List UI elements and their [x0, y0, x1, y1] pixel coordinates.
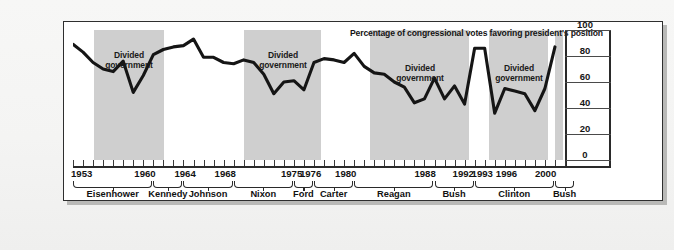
x-tick: [525, 160, 526, 166]
president-label: Eisenhower: [83, 189, 143, 199]
x-tick: [354, 160, 355, 166]
x-tick: [93, 160, 94, 166]
x-year-label: 1996: [496, 168, 517, 179]
x-tick: [334, 160, 335, 166]
x-tick: [284, 160, 285, 166]
x-tick: [264, 160, 265, 166]
x-tick: [445, 160, 446, 166]
band-label-1-line1: Divided: [114, 50, 144, 60]
president-label: Carter: [304, 189, 364, 199]
x-tick: [83, 160, 84, 166]
x-tick: [414, 160, 415, 166]
band-label-2-line1: Divided: [268, 50, 298, 60]
x-tick: [73, 160, 74, 166]
x-tick: [384, 160, 385, 166]
x-tick: [435, 160, 436, 166]
x-tick: [545, 160, 546, 166]
x-year-label: 1964: [174, 168, 195, 179]
x-tick: [565, 160, 566, 166]
y-tick-label: 60: [565, 71, 605, 82]
x-tick: [535, 160, 536, 166]
x-tick: [404, 160, 405, 166]
x-tick: [304, 160, 305, 166]
y-tick-line: [565, 30, 611, 31]
band-label-2: Divided government: [243, 50, 323, 70]
y-axis: 100806040200: [565, 30, 611, 166]
x-tick: [234, 160, 235, 166]
x-year-label: 1968: [215, 168, 236, 179]
x-tick: [424, 160, 425, 166]
band-label-1: Divided government: [89, 50, 169, 70]
x-tick: [204, 160, 205, 166]
x-tick: [294, 160, 295, 166]
x-tick: [163, 160, 164, 166]
y-tick-label: 20: [565, 123, 605, 134]
x-tick: [394, 160, 395, 166]
plot-area: Divided government Divided government Di…: [73, 30, 565, 160]
y-tick-line: [565, 108, 611, 109]
band-label-3-line1: Divided: [405, 63, 435, 73]
x-year-label: 1988: [414, 168, 435, 179]
x-tick: [194, 160, 195, 166]
x-tick: [254, 160, 255, 166]
x-tick: [344, 160, 345, 166]
president-label: Johnson: [178, 189, 238, 199]
y-axis-spine-right: [609, 30, 611, 166]
president-label: Bush: [424, 189, 484, 199]
x-year-label: 2000: [535, 168, 556, 179]
band-label-3: Divided government: [380, 63, 460, 83]
x-tick: [314, 160, 315, 166]
x-tick: [324, 160, 325, 166]
y-tick-label: 80: [565, 45, 605, 56]
president-label: Bush: [535, 189, 595, 199]
x-year-label: 1960: [134, 168, 155, 179]
x-tick: [173, 160, 174, 166]
x-tick: [183, 160, 184, 166]
x-year-label: 1980: [335, 168, 356, 179]
y-tick-line: [565, 160, 611, 161]
x-tick: [103, 160, 104, 166]
band-label-1-line2: government: [105, 60, 153, 70]
x-tick: [455, 160, 456, 166]
x-tick: [224, 160, 225, 166]
x-tick: [555, 160, 556, 166]
x-tick: [153, 160, 154, 166]
x-year-label: 1976: [300, 168, 321, 179]
x-tick: [214, 160, 215, 166]
x-tick: [374, 160, 375, 166]
x-tick: [505, 160, 506, 166]
x-tick: [515, 160, 516, 166]
y-tick-line: [565, 56, 611, 57]
x-tick: [465, 160, 466, 166]
band-label-4-line2: government: [495, 73, 543, 83]
x-tick: [495, 160, 496, 166]
x-tick: [113, 160, 114, 166]
x-year-label: 1953: [71, 168, 92, 179]
x-tick: [364, 160, 365, 166]
x-tick: [485, 160, 486, 166]
y-tick-line: [565, 134, 611, 135]
y-tick-label: 0: [565, 149, 605, 160]
x-tick: [143, 160, 144, 166]
figure-root: Divided government Divided government Di…: [0, 0, 674, 250]
x-tick: [123, 160, 124, 166]
y-tick-label: 100: [565, 19, 605, 30]
chart-frame: Divided government Divided government Di…: [63, 21, 663, 201]
x-tick: [475, 160, 476, 166]
band-label-4: Divided government: [479, 63, 559, 83]
president-label: Reagan: [364, 189, 424, 199]
band-label-4-line1: Divided: [504, 63, 534, 73]
x-tick: [244, 160, 245, 166]
x-tick: [274, 160, 275, 166]
y-tick-label: 40: [565, 97, 605, 108]
x-year-label: 1993: [472, 168, 493, 179]
y-tick-line: [565, 82, 611, 83]
x-tick: [133, 160, 134, 166]
band-label-2-line2: government: [259, 60, 307, 70]
band-label-3-line2: government: [396, 73, 444, 83]
